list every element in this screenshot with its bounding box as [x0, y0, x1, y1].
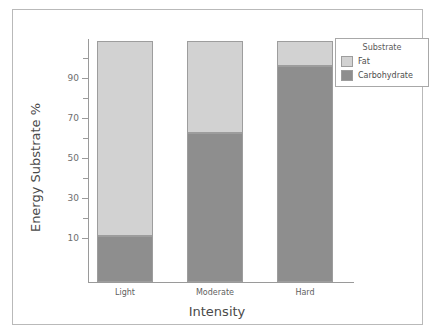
legend-item-carbohydrate[interactable]: Carbohydrate [341, 70, 423, 81]
legend-label-fat: Fat [358, 57, 370, 66]
y-tick-100 [83, 58, 88, 59]
plot-area [89, 41, 345, 282]
y-tick-80 [83, 98, 88, 99]
x-axis-title: Intensity [89, 304, 345, 319]
legend-label-carbohydrate: Carbohydrate [358, 71, 413, 80]
bar-moderate-carbohydrate[interactable] [187, 133, 243, 282]
legend-swatch-fat [341, 56, 353, 67]
y-tick-90 [82, 78, 88, 79]
chart-frame: 90 70 50 30 10 Light Moderate Hard [12, 9, 423, 325]
y-tick-label-group: 90 70 50 30 10 [57, 10, 79, 336]
y-tick-70 [82, 118, 88, 119]
legend-item-fat[interactable]: Fat [341, 56, 423, 67]
bar-hard-carbohydrate[interactable] [277, 66, 333, 282]
legend-box: Substrate Fat Carbohydrate [335, 38, 429, 87]
bar-moderate-fat[interactable] [187, 41, 243, 133]
y-tick-label-50: 50 [57, 154, 79, 163]
x-axis-line [88, 282, 354, 283]
bar-moderate[interactable] [187, 41, 243, 282]
y-tick-label-70: 70 [57, 114, 79, 123]
legend-swatch-carbohydrate [341, 70, 353, 81]
x-tick-label-light: Light [85, 288, 165, 297]
y-tick-label-30: 30 [57, 194, 79, 203]
y-tick-label-90: 90 [57, 74, 79, 83]
bar-hard[interactable] [277, 41, 333, 282]
bar-light[interactable] [97, 41, 153, 282]
legend-title: Substrate [341, 43, 423, 52]
y-tick-label-10: 10 [57, 234, 79, 243]
bar-hard-fat[interactable] [277, 41, 333, 66]
x-tick-label-moderate: Moderate [175, 288, 255, 297]
y-tick-40 [83, 178, 88, 179]
bar-light-fat[interactable] [97, 41, 153, 236]
y-tick-30 [82, 198, 88, 199]
y-tick-20 [83, 218, 88, 219]
y-tick-60 [83, 138, 88, 139]
y-tick-50 [82, 158, 88, 159]
bar-light-carbohydrate[interactable] [97, 236, 153, 282]
x-tick-label-hard: Hard [265, 288, 345, 297]
y-tick-10 [82, 238, 88, 239]
chart-figure: 90 70 50 30 10 Light Moderate Hard [0, 0, 436, 336]
y-axis-title: Energy Substrate % [28, 78, 43, 258]
